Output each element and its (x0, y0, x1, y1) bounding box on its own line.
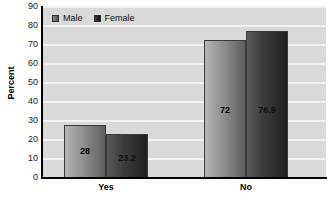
legend-item-male[interactable]: Male (52, 13, 83, 23)
female-swatch-icon (94, 15, 101, 22)
y-tick-90: 90 (14, 2, 38, 11)
legend: Male Female (52, 13, 135, 23)
y-tick-60: 60 (14, 59, 38, 68)
y-tick-40: 40 (14, 97, 38, 106)
bar-value-no-male: 72 (205, 105, 245, 115)
y-tick-0: 0 (14, 173, 38, 182)
bar-chart: Percent 90 80 70 60 50 40 30 20 10 0 28 … (0, 0, 329, 203)
bar-yes-female[interactable]: 23.2 (106, 134, 148, 178)
y-tick-70: 70 (14, 40, 38, 49)
bar-no-male[interactable]: 72 (204, 40, 246, 178)
legend-label-male: Male (63, 13, 83, 23)
y-axis-tick-labels: 90 80 70 60 50 40 30 20 10 0 (14, 0, 38, 181)
y-tick-20: 20 (14, 135, 38, 144)
y-tick-50: 50 (14, 78, 38, 87)
y-tick-80: 80 (14, 21, 38, 30)
plot-area: 28 23.2 72 76.9 (42, 6, 326, 178)
legend-item-female[interactable]: Female (94, 13, 135, 23)
y-tick-10: 10 (14, 154, 38, 163)
y-tick-30: 30 (14, 116, 38, 125)
bar-value-yes-male: 28 (65, 146, 105, 156)
x-tick-yes: Yes (64, 182, 148, 192)
x-axis-tick-labels: Yes No (42, 182, 326, 198)
gridline-90 (42, 6, 326, 8)
gridline-80 (42, 25, 326, 27)
bar-value-yes-female: 23.2 (107, 153, 147, 163)
bar-value-no-female: 76.9 (247, 105, 287, 115)
male-swatch-icon (52, 15, 59, 22)
legend-label-female: Female (105, 13, 135, 23)
y-axis-line (41, 6, 43, 179)
x-tick-no: No (204, 182, 288, 192)
bar-yes-male[interactable]: 28 (64, 125, 106, 179)
bar-no-female[interactable]: 76.9 (246, 31, 288, 178)
x-axis-line (41, 177, 327, 179)
